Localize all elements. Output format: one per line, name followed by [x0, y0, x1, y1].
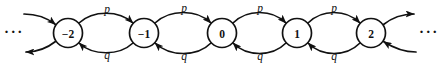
state-transition-diagram: −2 −1 0 1 2 p p p p q q q q ··· ···	[0, 0, 444, 63]
edge-label-q-4: q	[331, 50, 337, 63]
ellipsis-left: ···	[4, 24, 24, 40]
open-edge-left-incoming	[24, 14, 56, 25]
open-edge-right-outgoing	[384, 14, 415, 25]
edge-label-q-2: q	[181, 50, 187, 63]
edge-p-neg1-to-0	[155, 13, 211, 24]
edge-label-q-1: q	[104, 49, 110, 62]
node-label-2: 2	[368, 28, 374, 40]
node-label-0: 0	[219, 28, 225, 40]
node-state-minus-2: −2	[54, 19, 83, 48]
edge-label-q-3: q	[257, 50, 263, 63]
open-edge-right-incoming	[384, 42, 417, 53]
node-state-2: 2	[357, 19, 386, 48]
edge-label-p-4: p	[330, 2, 337, 15]
edge-label-p-2: p	[180, 2, 187, 15]
node-state-minus-1: −1	[130, 19, 159, 48]
node-label-minus-2: −2	[62, 28, 75, 40]
node-label-minus-1: −1	[138, 28, 151, 40]
edge-label-p-1: p	[103, 3, 110, 16]
ellipsis-right: ···	[419, 24, 439, 40]
edge-p-1-to-2	[308, 13, 360, 24]
node-state-1: 1	[283, 19, 312, 48]
node-label-1: 1	[294, 28, 300, 40]
edge-p-0-to-1	[233, 13, 286, 24]
open-edge-left-outgoing	[26, 42, 56, 53]
node-state-0: 0	[208, 19, 237, 48]
edge-label-p-3: p	[256, 2, 263, 15]
